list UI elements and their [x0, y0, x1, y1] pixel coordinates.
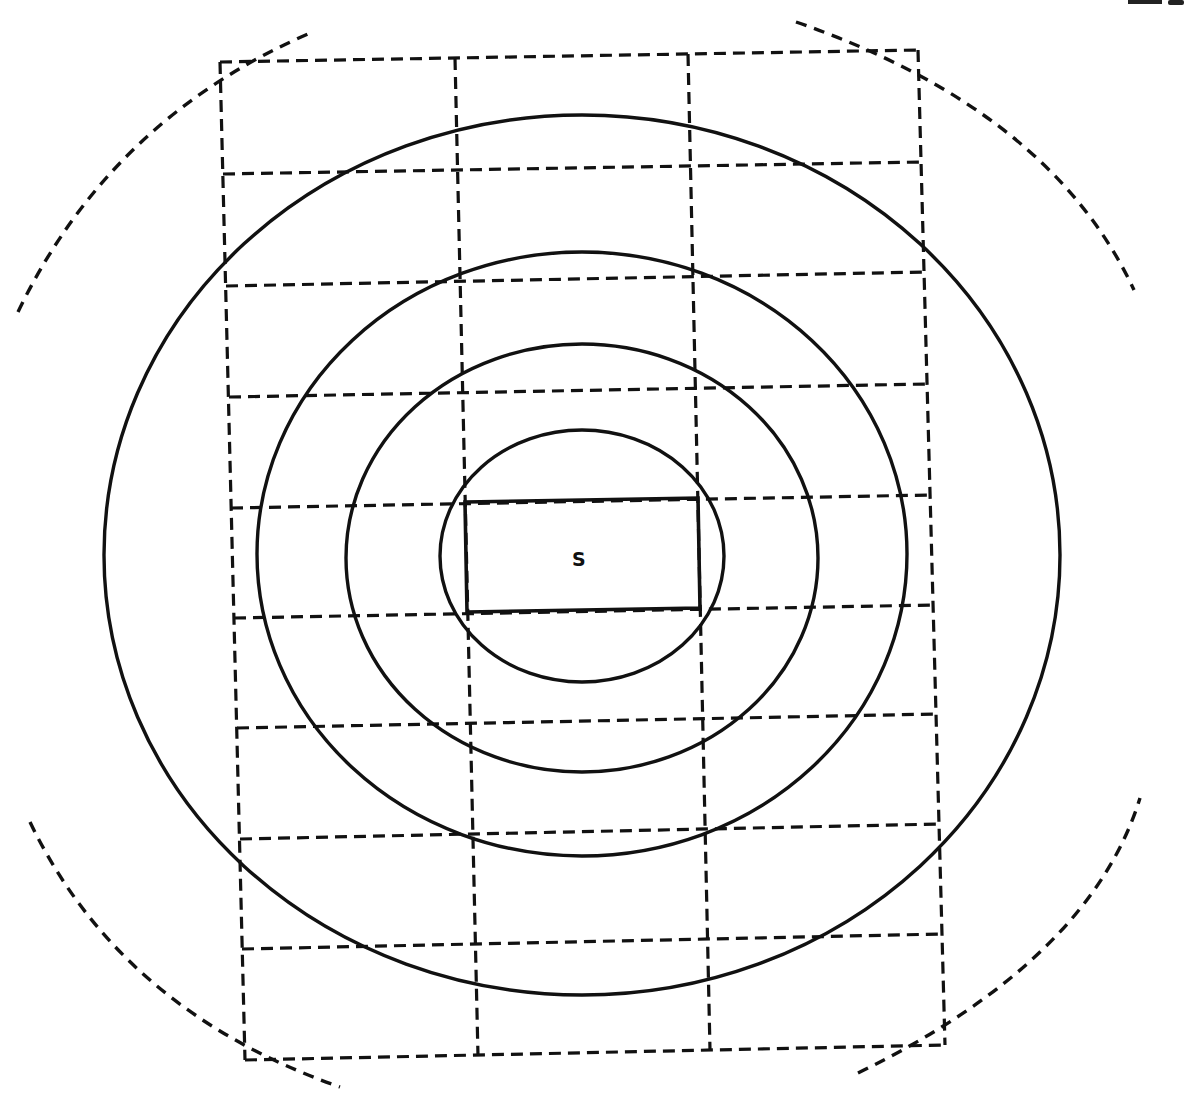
outer-arc-bottom-right — [858, 798, 1140, 1073]
grid-row-line-2 — [226, 272, 924, 286]
clipped-figure-label — [1128, 0, 1184, 5]
grid-row-line-9 — [245, 1045, 945, 1060]
outer-arc-top-right — [796, 22, 1134, 290]
grid-row-line-7 — [240, 824, 939, 839]
grid-row-line-8 — [242, 934, 942, 949]
grid-row-line-6 — [237, 714, 936, 728]
diagram-figure: S — [0, 0, 1190, 1113]
grid-col-line-0 — [220, 62, 245, 1060]
source-area: S — [465, 498, 700, 612]
outer-arc-bottom-left — [30, 822, 340, 1087]
grid-col-line-3 — [918, 50, 945, 1045]
grid-row-line-3 — [229, 384, 927, 397]
grid-row-line-0 — [220, 50, 918, 62]
source-label: S — [572, 548, 586, 570]
